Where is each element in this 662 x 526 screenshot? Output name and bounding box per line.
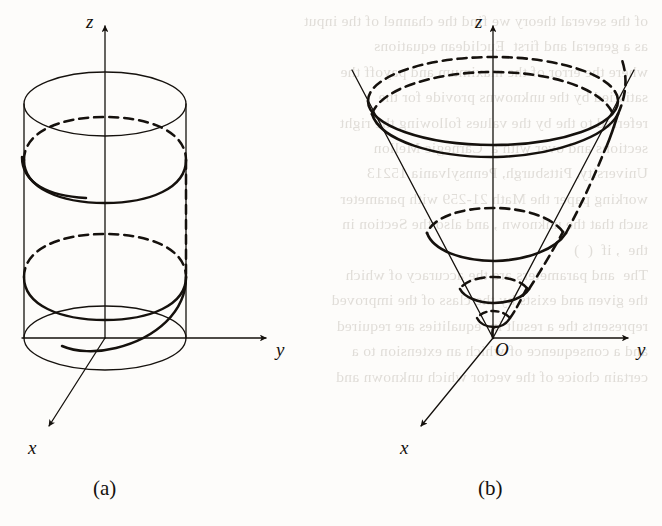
helix-front-arc-2 [24,277,186,320]
spiral-apex-tail [492,327,494,338]
figure-b-x-axis [421,338,493,426]
figure-a-graphic [22,26,266,426]
figure-a-x-axis [49,338,105,426]
spiral-link-3 [529,232,563,289]
spiral-exit-dashed [618,60,625,114]
helix-upper-left-tail [22,157,86,198]
cone-right-generator [493,70,634,338]
figure-b-caption: (b) [478,476,503,501]
cylinder-top-ellipse [24,72,186,136]
figures-vector-layer [0,0,662,526]
helix-back-arc-2 [24,234,186,277]
spiral-back-arc-1 [372,72,612,114]
figure-b-graphic [352,26,634,426]
spiral-link-2 [566,152,604,233]
figure-a-x-axis-label: x [28,437,36,459]
spiral-link-2-solid [604,114,618,152]
cylinder-bottom-ellipse [24,306,186,370]
spiral-back-arc-2 [427,208,563,233]
spiral-front-arc-2 [427,233,566,261]
cone-rim-front [368,101,618,145]
spiral-front-arc-1 [372,114,618,157]
figure-a-z-axis-label: z [86,11,93,33]
helix-front-arc-1 [24,160,186,203]
figure-b-x-axis-label: x [400,437,408,459]
ghost-bleedthrough-text: of the several theory we find the channe… [0,0,662,526]
figure-b-y-axis-label: y [637,339,645,361]
helix-lower-tail [62,277,186,351]
spiral-front-arc-3 [460,289,529,303]
figure-a-caption: (a) [93,476,116,501]
cone-rim-back [368,57,618,101]
figure-b-origin-label: O [495,339,509,361]
helix-back-arc-1 [24,117,186,160]
cone-left-generator [352,70,493,338]
figure-page: of the several theory we find the channe… [0,0,662,526]
figure-b-z-axis-label: z [475,11,482,33]
figure-a-y-axis-label: y [276,339,284,361]
spiral-front-arc-4 [477,318,510,327]
spiral-back-arc-4 [477,311,509,318]
spiral-back-arc-3 [460,277,527,289]
spiral-link-4 [510,288,527,318]
